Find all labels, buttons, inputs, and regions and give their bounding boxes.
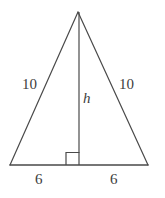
triangle-right-side xyxy=(78,12,148,165)
label-base-left-segment: 6 xyxy=(35,172,43,187)
label-altitude-h: h xyxy=(83,91,91,106)
right-angle-marker-icon xyxy=(66,153,80,166)
label-left-side-length: 10 xyxy=(22,77,37,92)
triangle-left-side xyxy=(10,12,78,165)
geometry-figure: 10 10 h 6 6 xyxy=(0,0,165,198)
label-base-right-segment: 6 xyxy=(110,172,118,187)
label-right-side-length: 10 xyxy=(119,77,134,92)
